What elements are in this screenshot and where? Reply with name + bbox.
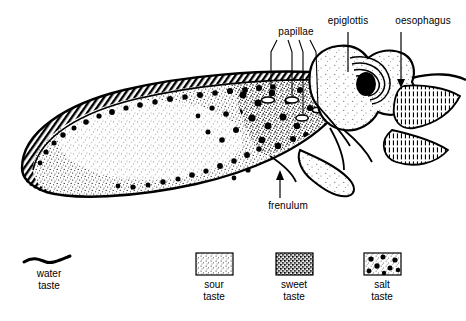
- soft-palate-line: [412, 74, 466, 80]
- legend-swatch-salt: [364, 253, 401, 275]
- legend-water-line1: water: [37, 268, 61, 280]
- legend-swatch-sweet: [276, 253, 313, 275]
- legend-swatch-sour: [196, 253, 233, 275]
- legend-sweet-line2: taste: [281, 291, 307, 303]
- callout-label-epiglottis: epiglottis: [328, 15, 368, 26]
- legend-salt-line1: salt: [371, 279, 393, 291]
- callout-label-oesophagus: oesophagus: [395, 15, 451, 26]
- legend-sour-line1: sour: [203, 279, 225, 291]
- legend-caption-sweet: sweet taste: [281, 279, 307, 302]
- legend-water-line2: taste: [37, 280, 61, 292]
- legend-swatch-water: [24, 256, 70, 263]
- callout-label-frenulum: frenulum: [268, 200, 308, 211]
- legend-caption-water: water taste: [37, 268, 61, 291]
- diagram-artwork: [0, 0, 466, 321]
- callout-label-papillae: papillae: [278, 26, 313, 37]
- tongue-taste-diagram: papillae epiglottis oesophagus frenulum …: [0, 0, 466, 321]
- laryngeal-inlet: [356, 72, 376, 96]
- frenulum-leader: [276, 170, 284, 198]
- legend-salt-line2: taste: [371, 291, 393, 303]
- floor-of-mouth: [299, 150, 354, 196]
- legend-sour-line2: taste: [203, 291, 225, 303]
- legend-caption-sour: sour taste: [203, 279, 225, 302]
- legend-caption-salt: salt taste: [371, 279, 393, 302]
- legend-sweet-line1: sweet: [281, 279, 307, 291]
